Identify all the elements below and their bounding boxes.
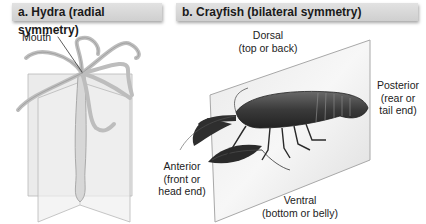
anterior-label: Anterior (front or head end) — [154, 160, 210, 198]
ventral-label: Ventral (bottom or belly) — [260, 194, 340, 219]
mouth-label: Mouth — [22, 31, 51, 44]
dorsal-label: Dorsal (top or back) — [228, 29, 308, 54]
anterior-desc-2: head end) — [154, 185, 210, 198]
ventral-term: Ventral — [260, 194, 340, 207]
ventral-desc: (bottom or belly) — [260, 207, 340, 220]
panel-b-title: b. Crayfish (bilateral symmetry) — [176, 3, 418, 21]
posterior-desc-2: tail end) — [370, 104, 426, 117]
posterior-term: Posterior — [370, 79, 426, 92]
anterior-desc-1: (front or — [154, 173, 210, 186]
dorsal-desc: (top or back) — [228, 42, 308, 55]
posterior-desc-1: (rear or — [370, 92, 426, 105]
panel-a-title: a. Hydra (radial symmetry) — [12, 3, 162, 21]
dorsal-term: Dorsal — [228, 29, 308, 42]
posterior-label: Posterior (rear or tail end) — [370, 79, 426, 117]
anterior-term: Anterior — [154, 160, 210, 173]
